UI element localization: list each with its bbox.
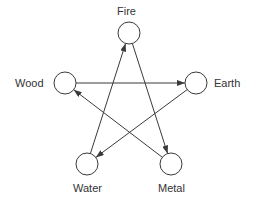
node-circle-water	[76, 153, 98, 175]
node-label-metal: Metal	[158, 182, 185, 194]
edges-layer	[74, 44, 188, 158]
five-elements-diagram: Fire Wood Earth Water Metal	[0, 0, 255, 199]
nodes-layer	[54, 22, 207, 175]
node-label-wood: Wood	[15, 77, 44, 89]
node-label-earth: Earth	[214, 77, 240, 89]
node-label-fire: Fire	[117, 5, 136, 17]
node-label-water: Water	[73, 182, 102, 194]
arrow-earth-to-water	[96, 90, 187, 158]
arrow-water-to-fire	[90, 44, 125, 154]
arrow-metal-to-wood	[74, 90, 163, 158]
node-circle-earth	[185, 72, 207, 94]
diagram-canvas	[0, 0, 255, 199]
arrow-fire-to-metal	[132, 44, 167, 154]
node-circle-fire	[118, 22, 140, 44]
node-circle-metal	[160, 153, 182, 175]
node-circle-wood	[54, 72, 76, 94]
